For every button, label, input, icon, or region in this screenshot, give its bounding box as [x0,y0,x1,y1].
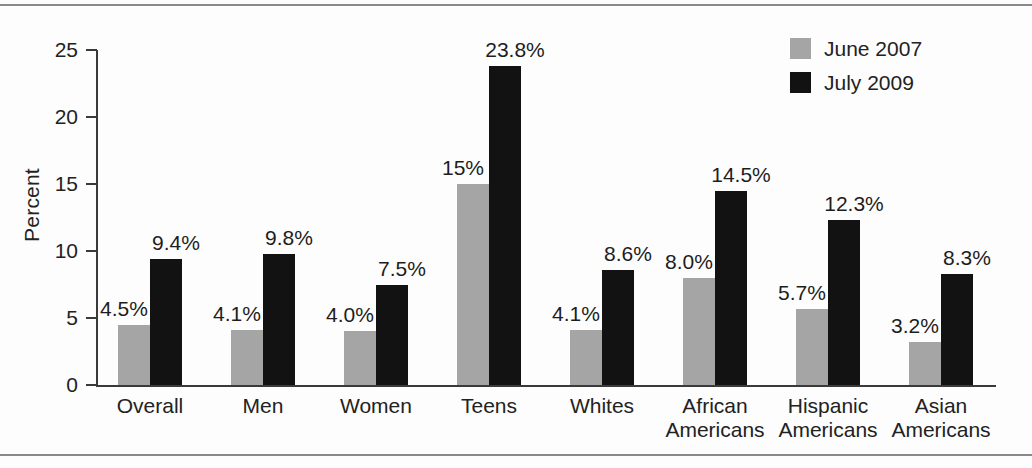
bar [683,278,715,385]
bar [715,191,747,385]
legend-entry: July 2009 [790,68,990,97]
bar [376,285,408,386]
bar [457,184,489,385]
bar-value-label: 8.3% [930,247,1004,268]
legend-entry: June 2007 [790,34,990,63]
x-category-label-line1: Asian [915,394,968,417]
x-category-label: AsianAmericans [871,394,1011,441]
bar-value-label: 14.5% [704,164,778,185]
bar [909,342,941,385]
bar [150,259,182,385]
bar-value-label: 3.2% [878,315,952,336]
bar [231,330,263,385]
bar-chart: Percent 0510152025 4.5%9.4%4.1%9.8%4.0%7… [0,8,1032,452]
bottom-rule [0,454,1032,456]
bar-value-label: 8.0% [652,251,726,272]
bar [796,309,828,385]
bar [118,325,150,385]
bar-value-label: 15% [426,157,500,178]
legend-entry-label: July 2009 [824,72,914,93]
x-category-label-line1: Whites [570,394,634,417]
bar-value-label: 4.1% [539,303,613,324]
x-category-label-line1: Overall [117,394,184,417]
bar-value-label: 9.8% [252,227,326,248]
legend-swatch-july-2009 [790,72,811,93]
x-category-label-line1: Men [243,394,284,417]
bar [602,270,634,385]
bar-value-label: 4.1% [200,303,274,324]
bar-value-label: 5.7% [765,282,839,303]
bar [570,330,602,385]
bar-value-label: 9.4% [139,232,213,253]
x-category-label-line2: Americans [871,418,1011,442]
legend-entry-label: June 2007 [824,38,922,59]
top-rule [0,4,1032,6]
x-axis-line [96,385,996,387]
x-category-label-line1: Teens [461,394,517,417]
x-category-label-line1: Hispanic [788,394,869,417]
legend-swatch-june-2007 [790,38,811,59]
bar-value-label: 4.0% [313,304,387,325]
bar-value-label: 4.5% [87,298,161,319]
bar [489,66,521,385]
bar-value-label: 7.5% [365,258,439,279]
bar-value-label: 23.8% [478,39,552,60]
x-category-label-line1: African [682,394,747,417]
bar-value-label: 12.3% [817,193,891,214]
x-category-label-line1: Women [340,394,412,417]
figure-page: Percent 0510152025 4.5%9.4%4.1%9.8%4.0%7… [0,0,1032,468]
bar [344,331,376,385]
chart-legend: June 2007July 2009 [790,34,990,102]
